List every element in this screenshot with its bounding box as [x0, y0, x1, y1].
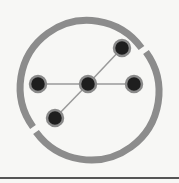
node-left [30, 76, 46, 92]
ring-arc-upper [20, 20, 141, 127]
node-center [80, 76, 96, 92]
network-graph-icon [0, 0, 179, 183]
node-right [126, 76, 142, 92]
divider [0, 177, 179, 179]
nodes [30, 40, 142, 126]
ring-arc-lower [36, 52, 159, 160]
node-top-right [114, 40, 130, 56]
node-bottom-left [47, 110, 63, 126]
